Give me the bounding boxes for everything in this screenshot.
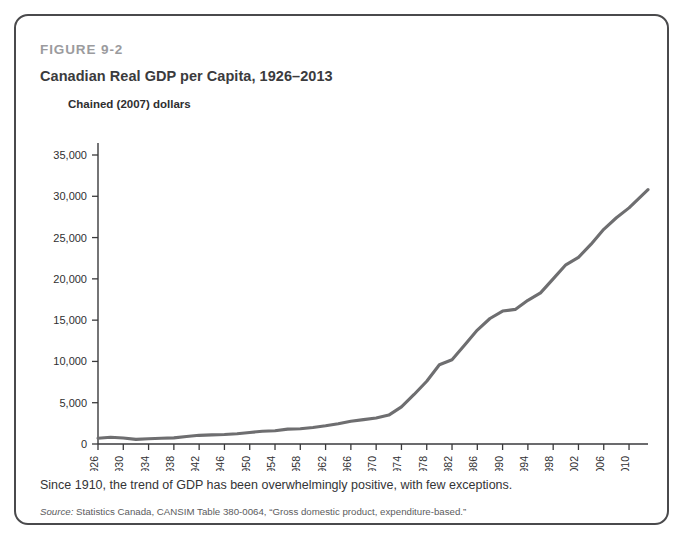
x-axis-tick-label: 1998	[543, 456, 555, 471]
x-axis-tick-label: 2002	[568, 456, 580, 471]
source-prefix: Source:	[40, 506, 73, 517]
y-axis-tick-label: 30,000	[53, 190, 87, 202]
y-axis-unit-label: Chained (2007) dollars	[68, 98, 191, 110]
x-axis-tick-label: 2010	[619, 456, 631, 471]
x-axis-tick-label: 1938	[164, 456, 176, 471]
y-axis-tick-label: 25,000	[53, 232, 87, 244]
y-axis-tick-label: 15,000	[53, 314, 87, 326]
x-axis-tick-label: 1946	[214, 456, 226, 471]
y-axis-tick-label: 0	[81, 438, 87, 450]
x-axis-tick-label: 1994	[518, 456, 530, 471]
x-axis-tick-label: 1990	[493, 456, 505, 471]
figure-card: FIGURE 9-2 Canadian Real GDP per Capita,…	[14, 14, 669, 525]
y-axis-tick-group: 05,00010,00015,00020,00025,00030,00035,0…	[53, 149, 98, 450]
x-axis-tick-label: 1986	[467, 456, 479, 471]
y-axis-tick-label: 20,000	[53, 273, 87, 285]
x-axis-tick-label: 1982	[442, 456, 454, 471]
figure-number-label: FIGURE 9-2	[40, 42, 123, 57]
y-axis-tick-label: 35,000	[53, 149, 87, 161]
x-axis-tick-label: 2006	[594, 456, 606, 471]
x-axis-tick-group: 1926193019341938194219461950195419581962…	[88, 444, 631, 471]
x-axis-tick-label: 1958	[290, 456, 302, 471]
x-axis-tick-label: 1974	[391, 456, 403, 471]
x-axis-tick-label: 1966	[341, 456, 353, 471]
x-axis-tick-label: 1926	[88, 456, 100, 471]
x-axis-tick-label: 1934	[139, 456, 151, 471]
x-axis-tick-label: 1930	[113, 456, 125, 471]
x-axis-tick-label: 1978	[417, 456, 429, 471]
source-text: Statistics Canada, CANSIM Table 380-0064…	[73, 506, 466, 517]
chart-plot-area: 05,00010,00015,00020,00025,00030,00035,0…	[36, 121, 651, 471]
figure-caption: Since 1910, the trend of GDP has been ov…	[40, 478, 640, 492]
x-axis-tick-label: 1954	[265, 456, 277, 471]
x-axis-tick-label: 1962	[316, 456, 328, 471]
x-axis-tick-label: 1942	[189, 456, 201, 471]
figure-source: Source: Statistics Canada, CANSIM Table …	[40, 506, 650, 517]
y-axis-tick-label: 10,000	[53, 355, 87, 367]
x-axis-tick-label: 1970	[366, 456, 378, 471]
line-chart: 05,00010,00015,00020,00025,00030,00035,0…	[36, 121, 651, 471]
x-axis-tick-label: 1950	[240, 456, 252, 471]
figure-title: Canadian Real GDP per Capita, 1926–2013	[40, 68, 333, 84]
gdp-per-capita-line	[98, 190, 648, 440]
y-axis-tick-label: 5,000	[59, 397, 87, 409]
